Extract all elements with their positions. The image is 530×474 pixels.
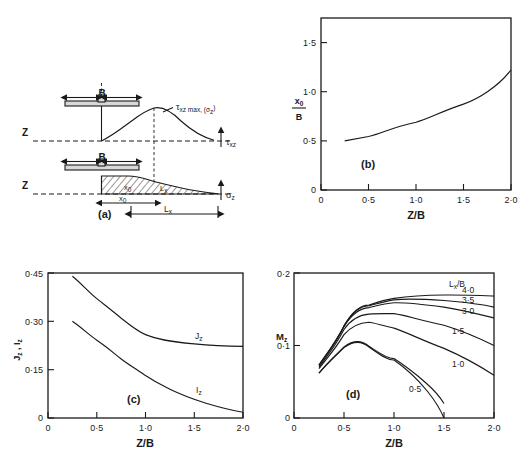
panel-d-chart: 0 0·1 0·2 0 0·5 1·0 1·5 2·0 Z/B Mz <box>266 240 530 474</box>
normal-stress-axis-marker: σz <box>221 186 235 201</box>
shear-stress-curve <box>102 106 215 182</box>
panel-b-xtick-20: 2·0 <box>504 195 517 205</box>
svg-text:τxz max, (σz): τxz max, (σz) <box>176 102 215 115</box>
panel-d-label-3-0: 3·0 <box>462 306 475 316</box>
panel-c-curve-label-J: Jz <box>195 331 203 342</box>
panel-d-xlabel: Z/B <box>385 437 403 449</box>
figure-root: B Z τxz max, (σz) <box>0 0 530 474</box>
panel-c-ylabel-i-sub: z <box>16 338 23 342</box>
hatch-label-x0-sub: 0 <box>128 186 132 193</box>
panel-b-ytick-05: 0·5 <box>303 136 316 146</box>
svg-text:x0: x0 <box>295 96 304 107</box>
panel-d-x-ticks: 0 0·5 1·0 1·5 2·0 <box>291 412 500 433</box>
panel-b-svg: 0 0·5 1·0 1·5 0 0·5 1·0 1·5 2·0 Z/B <box>266 0 530 240</box>
svg-text:σz: σz <box>226 190 235 201</box>
panel-b-xtick-10: 1·0 <box>409 195 422 205</box>
panel-c-ytick-015: 0·15 <box>25 365 43 375</box>
shear-axis-subscript: xz <box>230 141 237 148</box>
panel-d-label-3-5: 3·5 <box>462 295 475 305</box>
panel-d-svg: 0 0·1 0·2 0 0·5 1·0 1·5 2·0 Z/B Mz <box>266 240 530 474</box>
peak-shear-label: τxz max, (σz) <box>176 102 215 115</box>
panel-c-ytick-0: 0 <box>38 413 43 423</box>
panel-d-xtick-05: 0·5 <box>337 423 350 433</box>
panel-d-label-1-5: 1·5 <box>452 326 465 336</box>
panel-c-y-ticks: 0 0·15 0·30 0·45 <box>25 269 54 423</box>
panel-c-ytick-030: 0·30 <box>25 317 43 327</box>
panel-c-xtick-05: 0·5 <box>90 423 103 433</box>
shear-axis-marker: τxz <box>221 133 236 148</box>
panel-c-caption: (c) <box>127 393 141 405</box>
depth-label-upper: Z <box>22 127 28 138</box>
panel-b-y-ticks: 0 0·5 1·0 1·5 <box>303 38 327 195</box>
panel-c-xlabel: Z/B <box>136 437 154 449</box>
panel-c-svg: 0 0·15 0·30 0·45 0 0·5 1·0 1·5 2·0 Z/B <box>0 240 265 474</box>
panel-c-xtick-15: 1·5 <box>188 423 201 433</box>
panel-b-ytick-10: 1·0 <box>303 87 316 97</box>
tau-close-paren: ) <box>213 104 215 112</box>
footing-width-label-upper: B <box>99 88 106 99</box>
panel-d-xtick-20: 2·0 <box>487 423 500 433</box>
depth-label-lower: Z <box>22 180 28 191</box>
panel-c-xtick-20: 2·0 <box>236 423 249 433</box>
panel-d-label-4-0: 4·0 <box>462 285 475 295</box>
panel-a-svg: B Z τxz max, (σz) <box>0 0 265 240</box>
svg-text:x0: x0 <box>119 194 127 204</box>
panel-c-x-ticks: 0 0·5 1·0 1·5 2·0 <box>45 412 249 433</box>
panel-b-ylabel-den: B <box>296 112 303 122</box>
panel-d-ytick-0: 0 <box>285 413 290 423</box>
panel-d-xtick-10: 1·0 <box>387 423 400 433</box>
panel-b-xtick-15: 1·5 <box>457 195 470 205</box>
panel-b-chart: 0 0·5 1·0 1·5 0 0·5 1·0 1·5 2·0 Z/B <box>266 0 530 240</box>
tau-subscript: xz max, (σ <box>180 106 210 114</box>
panel-d-label-0-5: 0·5 <box>409 384 422 394</box>
panel-b-ytick-0: 0 <box>311 185 316 195</box>
panel-a-diagram: B Z τxz max, (σz) <box>0 0 265 240</box>
panel-b-ylabel-num-sub: 0 <box>300 100 304 107</box>
panel-b-xtick-0: 0 <box>318 195 323 205</box>
panel-b-x-ticks: 0 0·5 1·0 1·5 2·0 <box>318 184 517 205</box>
panel-c-curve-I <box>72 321 243 412</box>
dimension-x0: x0 <box>102 194 155 204</box>
panel-b-xlabel: Z/B <box>407 209 425 221</box>
svg-text:τxz: τxz <box>226 137 236 148</box>
panel-b-ytick-15: 1·5 <box>303 38 316 48</box>
panel-c-ytick-045: 0·45 <box>25 269 43 279</box>
panel-b-ylabel: x0 B <box>292 96 306 122</box>
datum-upper: Z <box>22 127 232 141</box>
dimension-x0-subscript: 0 <box>123 197 127 204</box>
footing-lower: B <box>65 152 139 171</box>
panel-b-xtick-05: 0·5 <box>362 195 375 205</box>
panel-d-y-ticks: 0 0·1 0·2 <box>277 269 300 423</box>
footing-width-label-lower: B <box>99 152 106 163</box>
panel-c-chart: 0 0·15 0·30 0·45 0 0·5 1·0 1·5 2·0 Z/B <box>0 240 265 474</box>
panel-d-curve-1-0 <box>319 342 444 404</box>
panel-b-caption: (b) <box>361 158 375 170</box>
panel-d-xtick-0: 0 <box>291 423 296 433</box>
panel-b-plot-frame <box>321 18 511 190</box>
panel-c-curve-label-I: Iz <box>196 385 202 396</box>
dimension-lx: Lx <box>131 204 218 218</box>
panel-b-curve <box>345 70 511 141</box>
panel-c-curve-J <box>72 276 243 346</box>
sigma-axis-subscript: z <box>232 194 235 201</box>
svg-text:Jz , Iz: Jz , Iz <box>12 338 23 360</box>
panel-d-label-1-0: 1·0 <box>452 359 465 369</box>
footing-upper: B <box>65 83 139 106</box>
panel-c-xtick-10: 1·0 <box>139 423 152 433</box>
panel-a-caption: (a) <box>98 208 112 220</box>
svg-text:Lx: Lx <box>164 204 173 215</box>
panel-c-ylabel: Jz , Iz <box>12 338 23 360</box>
panel-d-caption: (d) <box>346 388 360 400</box>
panel-d-ytick-02: 0·2 <box>277 269 290 279</box>
panel-d-xtick-15: 1·5 <box>437 423 450 433</box>
panel-c-xtick-0: 0 <box>45 423 50 433</box>
panel-d-ylabel: Mz <box>276 331 288 343</box>
